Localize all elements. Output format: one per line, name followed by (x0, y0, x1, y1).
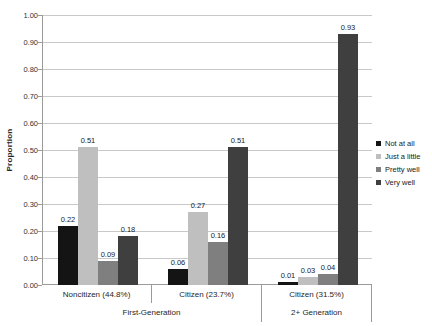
x-axis-category-row: Noncitizen (44.8%)Citizen (23.7%)Citizen… (42, 285, 372, 303)
y-tick-mark (38, 258, 42, 259)
y-tick-mark (38, 96, 42, 97)
y-tick-label: 0.80 (8, 65, 38, 74)
gridline (43, 69, 372, 70)
y-tick-mark (38, 177, 42, 178)
bar-just-a-little (188, 212, 208, 285)
x-category-label: Noncitizen (44.8%) (42, 285, 152, 303)
legend-label: Pretty well (385, 165, 420, 174)
y-tick-mark (38, 69, 42, 70)
legend-label: Very well (385, 178, 415, 187)
bar-value-label: 0.51 (71, 136, 105, 145)
bar-value-label: 0.18 (111, 225, 145, 234)
x-category-label: Citizen (23.7%) (152, 285, 262, 303)
y-tick-mark (38, 123, 42, 124)
gridline (43, 15, 372, 16)
y-tick-mark (38, 204, 42, 205)
bar-very-well (338, 34, 358, 285)
bar-just-a-little (78, 147, 98, 285)
y-tick-mark (38, 231, 42, 232)
plot-area: 0.220.510.090.180.060.270.160.510.010.03… (42, 15, 372, 285)
bar-pretty-well (98, 261, 118, 285)
bar-chart: Proportion 0.220.510.090.180.060.270.160… (0, 0, 432, 326)
y-tick-label: 0.60 (8, 119, 38, 128)
x-group-label: First-Generation (42, 303, 262, 322)
y-tick-mark (38, 15, 42, 16)
gridline (43, 123, 372, 124)
legend-swatch-not-at-all (376, 141, 381, 146)
gridline (43, 96, 372, 97)
x-axis-group-row: First-Generation2+ Generation (42, 303, 372, 322)
y-tick-label: 0.40 (8, 173, 38, 182)
legend-swatch-just-a-little (376, 154, 381, 159)
bar-value-label: 0.93 (331, 23, 365, 32)
y-tick-mark (38, 42, 42, 43)
y-tick-mark (38, 150, 42, 151)
x-group-label: 2+ Generation (262, 303, 372, 322)
y-tick-label: 0.00 (8, 281, 38, 290)
bar-value-label: 0.27 (181, 201, 215, 210)
bar-just-a-little (298, 277, 318, 285)
bar-very-well (118, 236, 138, 285)
bar-value-label: 0.51 (221, 136, 255, 145)
bar-pretty-well (318, 274, 338, 285)
y-tick-label: 0.30 (8, 200, 38, 209)
y-tick-label: 1.00 (8, 11, 38, 20)
x-category-label: Citizen (31.5%) (262, 285, 372, 303)
y-tick-label: 0.20 (8, 227, 38, 236)
y-tick-label: 0.90 (8, 38, 38, 47)
gridline (43, 42, 372, 43)
legend-entry: Very well (376, 176, 420, 189)
y-tick-label: 0.50 (8, 146, 38, 155)
legend-swatch-pretty-well (376, 167, 381, 172)
y-tick-label: 0.10 (8, 254, 38, 263)
legend-label: Not at all (385, 139, 415, 148)
legend-label: Just a little (385, 152, 420, 161)
bar-very-well (228, 147, 248, 285)
legend-entry: Not at all (376, 137, 420, 150)
legend: Not at allJust a littlePretty wellVery w… (376, 137, 420, 189)
legend-entry: Just a little (376, 150, 420, 163)
legend-entry: Pretty well (376, 163, 420, 176)
bar-not-at-all (58, 226, 78, 285)
bar-pretty-well (208, 242, 228, 285)
y-tick-mark (38, 285, 42, 286)
legend-swatch-very-well (376, 180, 381, 185)
bar-not-at-all (168, 269, 188, 285)
y-tick-label: 0.70 (8, 92, 38, 101)
